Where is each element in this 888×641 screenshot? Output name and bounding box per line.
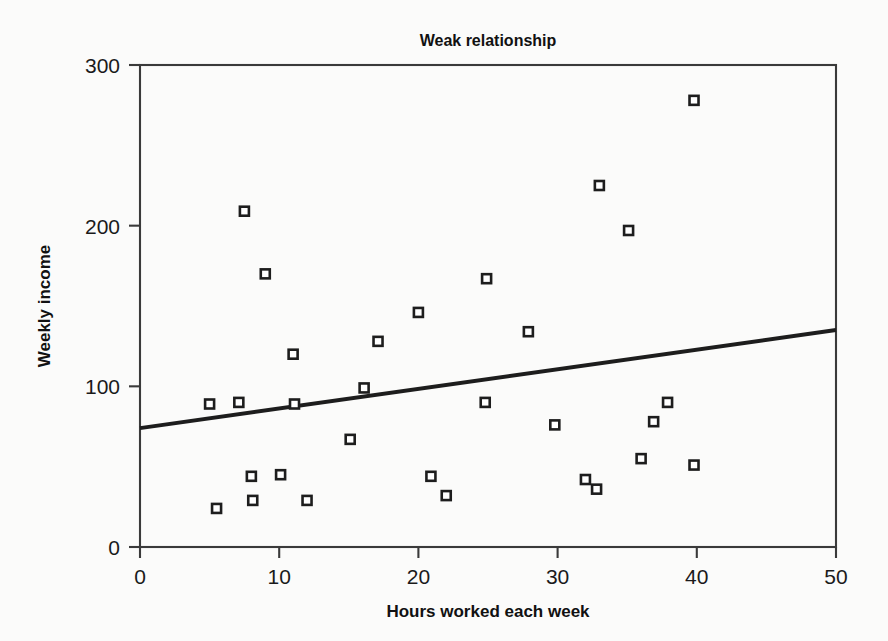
data-point (690, 461, 699, 470)
data-point (595, 181, 604, 190)
scatter-plot-figure: Weak relationship 0100200300 01020304050… (0, 0, 888, 641)
x-tick-label: 0 (134, 565, 146, 588)
data-point (346, 435, 355, 444)
y-tick-label: 100 (85, 375, 120, 398)
plot-frame (140, 65, 836, 547)
data-point (550, 420, 559, 429)
data-point (414, 308, 423, 317)
data-point (637, 454, 646, 463)
data-point (240, 207, 249, 216)
data-point (663, 398, 672, 407)
chart-canvas: Weak relationship 0100200300 01020304050… (0, 0, 888, 641)
y-tick-label: 0 (108, 536, 120, 559)
trend-line (140, 330, 836, 428)
data-point (248, 496, 257, 505)
data-point (374, 337, 383, 346)
data-point (289, 350, 298, 359)
data-point (481, 398, 490, 407)
x-tick-label: 10 (268, 565, 291, 588)
x-tick-label: 40 (685, 565, 708, 588)
x-axis-label: Hours worked each week (386, 602, 590, 621)
data-point (212, 504, 221, 513)
chart-title: Weak relationship (420, 32, 557, 49)
data-point (276, 470, 285, 479)
data-point (624, 226, 633, 235)
y-tick-label: 200 (85, 215, 120, 238)
data-point (442, 491, 451, 500)
x-tick-label: 20 (407, 565, 430, 588)
y-tick-label: 300 (85, 54, 120, 77)
y-axis-label: Weekly income (35, 245, 54, 368)
data-point (426, 472, 435, 481)
data-point (261, 269, 270, 278)
data-point (234, 398, 243, 407)
data-point (524, 327, 533, 336)
data-point (290, 400, 299, 409)
data-point (303, 496, 312, 505)
x-tick-label: 50 (824, 565, 847, 588)
data-point (247, 472, 256, 481)
data-points-group (205, 96, 698, 513)
data-point (649, 417, 658, 426)
y-axis-ticks: 0100200300 (85, 54, 140, 559)
data-point (592, 485, 601, 494)
data-point (205, 400, 214, 409)
data-point (581, 475, 590, 484)
data-point (690, 96, 699, 105)
x-axis-ticks: 01020304050 (134, 547, 848, 588)
data-point (360, 383, 369, 392)
x-tick-label: 30 (546, 565, 569, 588)
data-point (482, 274, 491, 283)
